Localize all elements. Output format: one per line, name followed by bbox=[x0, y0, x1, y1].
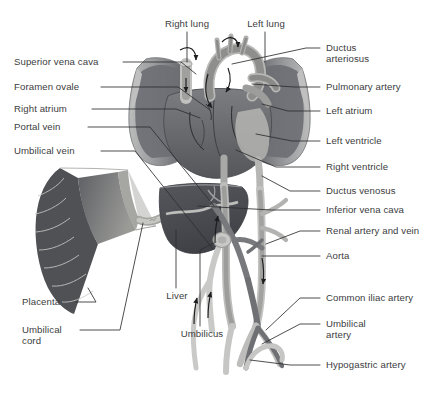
label-right-ventricle: Right ventricle bbox=[326, 161, 388, 172]
label-umbilicus: Umbilicus bbox=[174, 328, 230, 339]
label-common-iliac-artery: Common iliac artery bbox=[326, 292, 413, 303]
label-left-lung: Left lung bbox=[238, 18, 294, 29]
heart-group bbox=[164, 36, 276, 190]
label-hypogastric-artery: Hypogastric artery bbox=[326, 359, 406, 370]
label-inferior-vena-cava: Inferior vena cava bbox=[326, 204, 404, 215]
label-liver: Liver bbox=[160, 290, 194, 301]
label-left-atrium: Left atrium bbox=[326, 105, 372, 116]
label-pulmonary-artery: Pulmonary artery bbox=[326, 81, 401, 92]
label-placenta: Placenta bbox=[22, 296, 60, 307]
label-portal-vein: Portal vein bbox=[14, 121, 60, 132]
fetal-circulation-diagram: Right lung Left lung Superior vena cava … bbox=[0, 0, 441, 394]
label-foramen-ovale: Foramen ovale bbox=[14, 81, 79, 92]
label-right-lung: Right lung bbox=[156, 18, 218, 29]
label-superior-vena-cava: Superior vena cava bbox=[14, 56, 98, 67]
label-aorta: Aorta bbox=[326, 250, 349, 261]
label-umbilical-cord: Umbilical cord bbox=[22, 324, 62, 347]
label-ductus-venosus: Ductus venosus bbox=[326, 185, 396, 196]
label-renal-artery-and-vein: Renal artery and vein bbox=[326, 225, 419, 236]
label-left-ventricle: Left ventricle bbox=[326, 135, 382, 146]
label-umbilical-vein: Umbilical vein bbox=[14, 145, 75, 156]
label-umbilical-artery: Umbilical artery bbox=[326, 318, 366, 341]
label-ductus-arteriosus: Ductus arteriosus bbox=[326, 42, 369, 65]
placenta-group bbox=[35, 168, 156, 314]
label-right-atrium: Right atrium bbox=[14, 103, 67, 114]
